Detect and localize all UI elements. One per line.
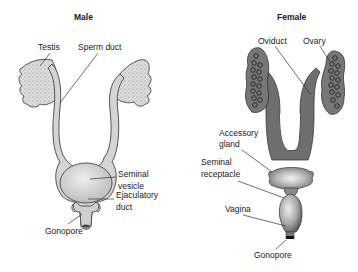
female-diagram: Female Oviduct — [180, 0, 358, 272]
left-ovary — [245, 48, 268, 113]
label-seminal-vesicle-1: Seminal — [118, 169, 149, 179]
label-seminal-receptacle-2: receptacle — [201, 169, 240, 179]
right-ovary — [321, 51, 344, 114]
male-gonopore — [82, 224, 90, 227]
sperm-ducts-and-vesicle — [48, 64, 124, 229]
label-sperm-duct: Sperm duct — [78, 42, 122, 52]
female-gonopore — [286, 236, 294, 239]
label-testis: Testis — [38, 42, 60, 52]
label-seminal-receptacle-1: Seminal — [201, 157, 232, 167]
female-reproductive-system-illustration: Female Oviduct — [180, 0, 358, 272]
male-reproductive-system-illustration: Male Testis Sperm duct Seminal vesicle E… — [0, 0, 180, 272]
seminal-vesicle — [60, 163, 112, 203]
vagina — [279, 194, 302, 232]
label-oviduct: Oviduct — [258, 36, 287, 46]
label-male-gonopore: Gonopore — [45, 226, 83, 236]
label-ejaculatory-duct-2: duct — [116, 202, 133, 212]
male-title: Male — [74, 12, 93, 22]
label-ejaculatory-duct-1: Ejaculatory — [116, 190, 159, 200]
label-female-gonopore: Gonopore — [254, 250, 292, 260]
label-accessory-gland-1: Accessory — [219, 128, 259, 138]
male-diagram: Male Testis Sperm duct Seminal vesicle E… — [0, 0, 180, 272]
label-vagina: Vagina — [225, 204, 251, 214]
female-title: Female — [277, 12, 307, 22]
accessory-gland — [269, 168, 314, 190]
label-accessory-gland-2: gland — [219, 139, 240, 149]
duct-gap — [64, 80, 114, 165]
label-ovary: Ovary — [303, 36, 326, 46]
